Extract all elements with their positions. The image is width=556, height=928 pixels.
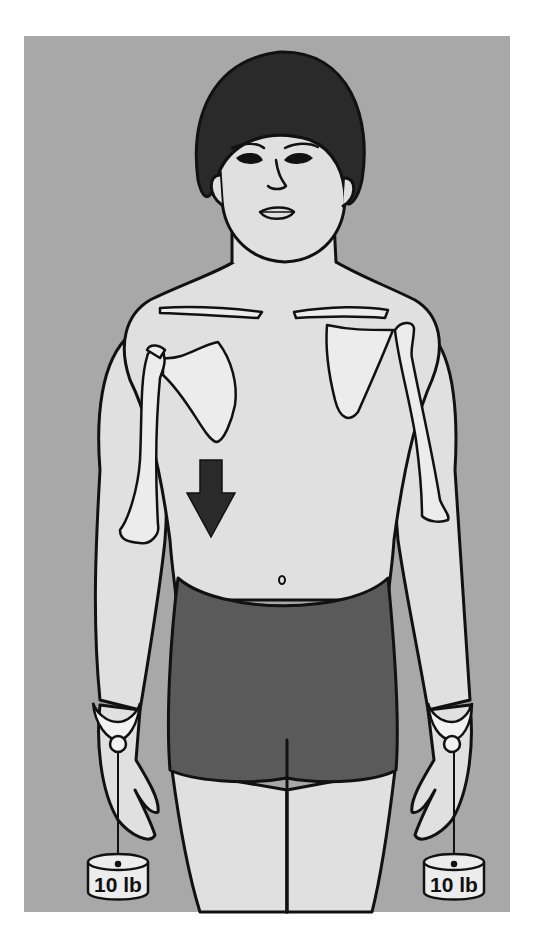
navel [279, 576, 285, 584]
right-weight-label: 10 lb [94, 873, 142, 896]
face [220, 135, 345, 262]
left-cuff-ring [444, 736, 460, 752]
right-eye [237, 154, 262, 163]
left-clavicle [294, 307, 388, 318]
mouth [260, 208, 294, 219]
left-weight-label: 10 lb [430, 873, 478, 896]
anatomical-illustration: 10 lb 10 lb [0, 0, 556, 928]
right-cuff-ring [110, 736, 126, 752]
shorts [168, 578, 397, 782]
